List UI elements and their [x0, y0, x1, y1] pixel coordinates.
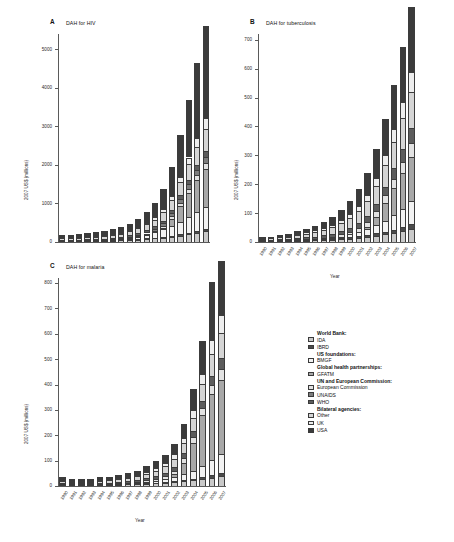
bar-segment-bmgf — [194, 212, 200, 230]
bar-a-1995 — [101, 231, 107, 242]
bar-segment-who — [135, 233, 141, 235]
y-tick — [255, 98, 258, 99]
bar-b-1991 — [268, 237, 274, 242]
bar-a-1993 — [84, 233, 90, 242]
bar-segment-who — [152, 226, 158, 228]
y-tick — [55, 165, 58, 166]
bar-segment-ida — [199, 479, 206, 486]
bar-segment-unaids — [135, 235, 141, 236]
y-axis-label-a: 2007 US$ (millions) — [24, 160, 29, 200]
bar-segment-who — [59, 483, 66, 484]
bar-segment-ida — [186, 234, 192, 242]
bar-segment-european-commission — [373, 211, 379, 217]
bar-segment-usa — [364, 173, 370, 195]
bar-a-1992 — [76, 234, 82, 242]
legend-swatch-icon — [308, 413, 314, 418]
bar-segment-usa — [152, 203, 158, 217]
y-tick — [55, 359, 58, 360]
bar-segment-european-commission — [160, 226, 166, 228]
bar-c-2005 — [199, 341, 206, 486]
y-axis-label-b: 2007 US$ (millions) — [234, 160, 239, 200]
bar-segment-bmgf — [153, 481, 160, 483]
bar-segment-european-commission — [329, 237, 335, 239]
bar-segment-who — [84, 239, 90, 240]
y-tick — [55, 126, 58, 127]
bar-segment-european-commission — [356, 228, 362, 232]
bar-segment-bmgf — [400, 209, 406, 227]
bar-segment-gfatm — [160, 228, 166, 230]
bar-b-1993 — [285, 234, 291, 242]
bar-segment-who — [69, 483, 76, 484]
bar-segment-usa — [162, 455, 169, 463]
bar-segment-gfatm — [218, 380, 225, 454]
bar-segment-usa — [125, 473, 132, 477]
bar-segment-uk — [312, 230, 318, 231]
bar-segment-ida — [143, 484, 150, 486]
bar-segment-gfatm — [373, 217, 379, 226]
bar-segment-who — [181, 453, 188, 458]
bar-segment-ida — [347, 239, 353, 242]
bar-segment-gfatm — [186, 193, 192, 218]
bar-segment-other — [382, 165, 388, 187]
bar-segment-european-commission — [143, 480, 150, 482]
bar-segment-ibrd — [400, 227, 406, 231]
y-tick-label: 700 — [228, 37, 252, 42]
bar-segment-ida — [97, 485, 104, 486]
bar-b-2006 — [400, 47, 406, 242]
bar-segment-other — [373, 186, 379, 204]
bar-segment-ibrd — [408, 224, 414, 229]
bar-segment-ida — [209, 478, 216, 486]
bar-segment-uk — [347, 214, 353, 218]
bar-segment-other — [356, 211, 362, 223]
legend-item-bmgf: BMGF — [308, 357, 448, 364]
bar-segment-gfatm — [181, 463, 188, 474]
bar-segment-other — [68, 238, 74, 240]
bar-b-1995 — [303, 229, 309, 242]
bar-segment-unaids — [144, 232, 150, 234]
bar-segment-usa — [143, 466, 150, 471]
bar-segment-who — [190, 431, 197, 437]
bar-segment-bmgf — [171, 477, 178, 481]
bar-segment-ida — [135, 240, 141, 242]
bar-segment-european-commission — [203, 163, 209, 169]
bar-segment-gfatm — [171, 474, 178, 477]
bar-segment-who — [312, 237, 318, 239]
bar-segment-ibrd — [194, 231, 200, 233]
y-tick-label: 200 — [228, 182, 252, 187]
legend-swatch-icon — [308, 345, 314, 350]
bar-segment-unaids — [169, 213, 175, 216]
bar-segment-ibrd — [373, 233, 379, 235]
bar-segment-ida — [190, 480, 197, 486]
bar-segment-uk — [209, 340, 216, 354]
y-tick — [55, 203, 58, 204]
bar-segment-who — [93, 239, 99, 240]
bar-segment-ida — [101, 241, 107, 242]
figure-canvas: ADAH for HIV0100020003000400050002007 US… — [0, 0, 454, 542]
bar-segment-usa — [373, 149, 379, 177]
bar-segment-ida — [382, 234, 388, 242]
bar-segment-european-commission — [190, 437, 197, 443]
bar-segment-unaids — [194, 170, 200, 175]
bar-segment-who — [321, 235, 327, 237]
bar-segment-ibrd — [209, 475, 216, 478]
bar-segment-other — [312, 232, 318, 237]
y-axis-line-c — [58, 278, 59, 486]
y-tick-label: 0 — [18, 483, 52, 488]
bar-segment-who — [338, 231, 344, 234]
bar-segment-uk — [400, 102, 406, 118]
y-tick — [55, 308, 58, 309]
bar-segment-other — [190, 418, 197, 431]
bar-segment-other — [321, 230, 327, 235]
bar-segment-who — [110, 238, 116, 239]
bar-segment-usa — [259, 237, 265, 238]
bar-segment-usa — [93, 232, 99, 236]
y-tick-label: 0 — [228, 239, 252, 244]
bar-segment-european-commission — [152, 231, 158, 233]
bar-b-2007 — [408, 7, 414, 242]
bar-segment-european-commission — [144, 234, 150, 235]
bar-segment-bmgf — [190, 471, 197, 479]
bar-segment-who — [373, 204, 379, 211]
bar-a-2002 — [160, 189, 166, 242]
bar-segment-who — [356, 223, 362, 228]
bar-b-1994 — [294, 231, 300, 242]
